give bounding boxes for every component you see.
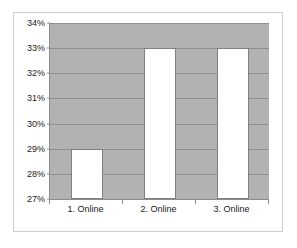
x-tick-mark <box>49 200 50 204</box>
y-tick-mark <box>47 123 50 124</box>
plot-area: 27%28%29%30%31%32%33%34% <box>49 23 269 200</box>
y-tick-mark <box>47 48 50 49</box>
x-tick-mark <box>268 200 269 204</box>
gridline <box>50 23 269 24</box>
y-tick-mark <box>47 73 50 74</box>
y-tick-label: 28% <box>27 169 45 178</box>
x-tick-label-2: 2. Online <box>140 205 176 214</box>
y-tick-mark <box>47 173 50 174</box>
y-tick-label: 29% <box>27 144 45 153</box>
y-tick-mark <box>47 98 50 99</box>
x-tick-label-1: 1. Online <box>67 205 103 214</box>
y-tick-label: 34% <box>27 19 45 28</box>
y-tick-label: 31% <box>27 94 45 103</box>
x-axis: 1. Online2. Online3. Online <box>49 203 269 223</box>
bar-1 <box>71 149 103 199</box>
chart-figure: 27%28%29%30%31%32%33%34% 1. Online2. Onl… <box>13 12 283 232</box>
y-tick-label: 33% <box>27 44 45 53</box>
x-tick-label-3: 3. Online <box>213 205 249 214</box>
y-tick-mark <box>47 148 50 149</box>
y-tick-label: 32% <box>27 69 45 78</box>
y-tick-mark <box>47 23 50 24</box>
bar-2 <box>144 48 176 199</box>
y-tick-label: 30% <box>27 119 45 128</box>
x-tick-mark <box>122 200 123 204</box>
y-tick-label: 27% <box>27 195 45 204</box>
x-tick-mark <box>195 200 196 204</box>
bar-3 <box>217 48 249 199</box>
